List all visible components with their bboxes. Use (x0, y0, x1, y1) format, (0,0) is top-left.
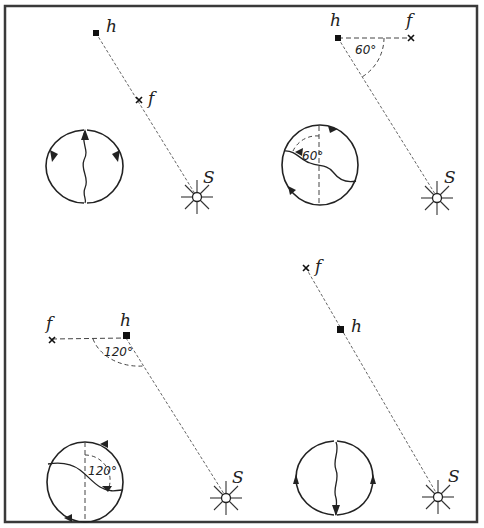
food-marker-icon (49, 337, 55, 343)
dance-globe (46, 129, 123, 203)
angle-label: 120° (104, 345, 133, 359)
sun-label: S (232, 467, 244, 487)
sun-label: S (448, 466, 460, 486)
dance-angle-label: 60° (302, 149, 323, 163)
dance-angle-label: 120° (88, 464, 117, 478)
hive-marker-icon (93, 30, 99, 36)
food-label: f (404, 10, 415, 30)
sun-label: S (444, 167, 456, 187)
dance-globe: 120° (47, 440, 123, 522)
angle-label: 60° (355, 43, 376, 57)
food-label: f (44, 313, 55, 333)
panel-top-left: h f S (46, 16, 215, 214)
sun-direction-line (306, 268, 438, 496)
dance-globe: 60° (282, 125, 358, 205)
diagram-canvas: h f S 60° h f S (0, 0, 484, 528)
food-label: f (313, 256, 324, 276)
hive-label: h (106, 16, 117, 36)
hive-label: h (351, 316, 362, 336)
panel-bottom-right: f h S (293, 256, 460, 516)
sun-direction-line (338, 38, 437, 197)
sun-direction-line (126, 338, 226, 497)
panel-top-right: 60° h f S 60° (282, 10, 456, 215)
arrow-up-icon (293, 474, 299, 484)
hive-marker-icon (337, 326, 344, 333)
hive-label: h (120, 310, 131, 330)
sun-direction-line (96, 33, 197, 197)
dance-globe (293, 441, 376, 516)
hive-label: h (330, 10, 341, 30)
panel-bottom-left: 120° h f S 120° (44, 310, 244, 522)
food-marker-icon (408, 35, 414, 41)
hive-marker-icon (335, 35, 341, 41)
arrow-icon (50, 150, 58, 162)
arrow-up-icon (370, 474, 376, 484)
sun-label: S (203, 167, 215, 187)
arrow-icon (288, 186, 296, 195)
hive-marker-icon (123, 332, 130, 339)
food-label: f (146, 88, 157, 108)
arrow-icon (112, 150, 120, 162)
food-marker-icon (303, 265, 309, 271)
figure-frame (5, 6, 477, 522)
food-direction-line (52, 338, 126, 339)
